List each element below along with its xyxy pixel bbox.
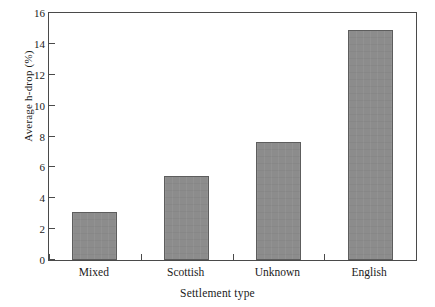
y-axis-tick-label: 4 [40, 190, 46, 206]
y-axis-tick-label: 6 [40, 159, 46, 175]
y-axis-tick-label: 14 [34, 36, 45, 52]
x-axis-tick [141, 254, 142, 260]
plot-area: 0246810121416 [48, 12, 417, 261]
x-axis-category-label: Unknown [232, 266, 324, 278]
x-axis-category-label: Scottish [140, 266, 232, 278]
y-axis-tick: 8 [49, 136, 55, 137]
y-axis-title: Average h-drop (%) [22, 16, 34, 176]
x-axis-tick [416, 254, 417, 260]
x-axis-tick [49, 254, 50, 260]
y-axis-tick: 14 [49, 43, 55, 44]
bar-english [348, 30, 393, 260]
y-axis-tick-label: 16 [34, 5, 45, 21]
bar-unknown [256, 142, 301, 260]
x-axis-category-label: Mixed [48, 266, 140, 278]
y-axis-tick-label: 12 [34, 67, 45, 83]
x-axis-tick [233, 254, 234, 260]
y-axis-tick-label: 8 [40, 129, 46, 145]
y-axis-tick-label: 0 [40, 252, 46, 268]
y-axis-tick: 16 [49, 12, 55, 13]
y-axis-tick-label: 2 [40, 221, 46, 237]
x-axis-tick [324, 254, 325, 260]
bar-mixed [72, 212, 117, 260]
y-axis-tick: 10 [49, 105, 55, 106]
chart-figure: Average h-drop (%) 0246810121416 Settlem… [0, 0, 435, 307]
y-axis-tick-label: 10 [34, 98, 45, 114]
x-axis-category-label: English [323, 266, 415, 278]
x-axis-title: Settlement type [0, 287, 435, 299]
y-axis-tick: 4 [49, 197, 55, 198]
y-axis-tick: 6 [49, 166, 55, 167]
bar-scottish [164, 176, 209, 260]
y-axis-tick: 12 [49, 74, 55, 75]
y-axis-tick: 2 [49, 228, 55, 229]
